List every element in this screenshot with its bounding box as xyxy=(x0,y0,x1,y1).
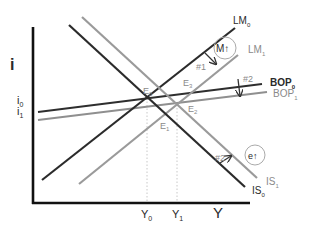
lm1-label: LM1 xyxy=(248,44,266,57)
shift2-bop-label: #2 xyxy=(243,74,253,84)
e1-label: E1 xyxy=(160,121,170,132)
e3-label: E3 xyxy=(183,78,193,89)
money-increase-text: M↑ xyxy=(216,43,229,54)
e0-label: E0 xyxy=(143,86,153,97)
bop1-curve xyxy=(38,92,267,120)
lm-shift-arrow xyxy=(205,53,216,64)
y0-tick-label: Y0 xyxy=(141,208,152,222)
lm0-label: LM0 xyxy=(233,15,251,28)
lm0-curve xyxy=(42,28,235,180)
bop0-curve xyxy=(38,84,262,112)
is-lm-bop-diagram: i Y i0 i1 Y0 Y1 LM0 LM1 BOP0 BOP1 IS1 IS… xyxy=(0,0,309,229)
is0-label: IS0 xyxy=(252,185,265,198)
is1-label: IS1 xyxy=(266,176,279,189)
e2-label: E2 xyxy=(188,104,198,115)
shift1-label: #1 xyxy=(196,62,206,72)
exchange-rate-text: e↑ xyxy=(248,151,258,161)
lm1-curve xyxy=(79,55,238,184)
y-axis-label: i xyxy=(10,56,14,73)
y1-tick-label: Y1 xyxy=(172,208,183,222)
shift2-is-label: #2 xyxy=(215,153,225,163)
x-axis-label: Y xyxy=(213,204,223,221)
